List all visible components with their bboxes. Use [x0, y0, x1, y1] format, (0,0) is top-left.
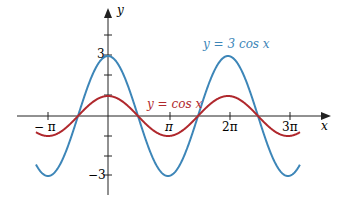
tick-label-2pi: 2π: [222, 120, 238, 134]
tick-label-3pi: 3π: [282, 120, 298, 134]
tick-label-neg-pi: − π: [34, 120, 56, 134]
legend-cos: y = cos x: [147, 97, 202, 111]
tick-label-pi: π: [165, 120, 173, 134]
legend-3cos: y = 3 cos x: [203, 37, 270, 51]
y-axis-label: y: [117, 3, 124, 17]
tick-label-neg3: −3: [88, 168, 106, 182]
tick-label-3: 3: [97, 47, 105, 61]
y-axis-arrow-icon: [104, 8, 112, 18]
chart: y x − π π 2π 3π 3 −3 y = 3 cos x y = cos…: [0, 0, 347, 205]
x-axis-label: x: [321, 119, 328, 133]
